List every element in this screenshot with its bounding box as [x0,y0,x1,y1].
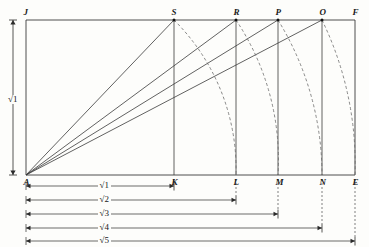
dimension-bar-arrow-start-5 [26,239,31,244]
dimension-bar-arrow-end-3 [274,212,279,217]
dimension-bar-arrow-end-4 [318,226,323,231]
point-label-r: R [234,8,240,17]
dimension-bar-label-3: √3 [98,209,111,218]
point-label-j: J [24,8,29,17]
vertex-dot-p [277,19,280,22]
vertex-dot-r [235,19,238,22]
dimension-bar-label-5: √5 [98,236,111,245]
point-label-l: L [234,178,240,187]
dimension-bar-label-4: √4 [98,223,111,232]
ray-a-to-r [26,20,236,175]
arc-o-to-e [322,20,355,175]
point-label-a: A [24,178,30,187]
vertex-dot-o [321,19,324,22]
vertex-dot-s [173,19,176,22]
figure-canvas: JSRPOFAKLMNE√1√1√2√3√4√5 [0,0,369,247]
point-label-p: P [276,8,282,17]
vertical-dimension-arrow-top [10,20,15,25]
vertical-dimension-label: √1 [6,95,19,104]
arc-p-to-n [278,20,322,175]
construction-drawing [0,0,369,247]
point-label-k: K [172,178,178,187]
vertical-dimension-arrow-bottom [10,171,15,176]
point-label-f: F [353,8,359,17]
dimension-bar-arrow-end-5 [351,239,356,244]
dimension-bar-arrow-start-3 [26,212,31,217]
point-label-o: O [320,8,327,17]
point-label-m: M [276,178,284,187]
dimension-bar-arrow-start-2 [26,198,31,203]
dimension-bar-arrow-end-2 [232,198,237,203]
dimension-bar-arrow-start-4 [26,226,31,231]
point-label-e: E [353,178,359,187]
point-label-n: N [320,178,327,187]
arc-r-to-m [236,20,278,175]
dimension-bar-label-1: √1 [98,181,111,190]
point-label-s: S [172,8,177,17]
dimension-bar-label-2: √2 [98,195,111,204]
